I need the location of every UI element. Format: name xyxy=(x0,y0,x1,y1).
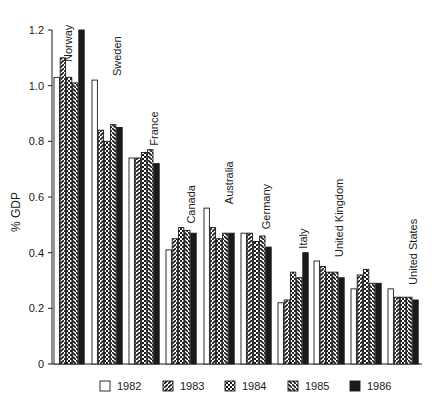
bar xyxy=(185,230,190,364)
bar xyxy=(284,300,289,364)
bar xyxy=(229,233,234,364)
country-label: Sweden xyxy=(111,36,123,76)
bar xyxy=(351,289,356,364)
legend-swatch xyxy=(100,381,110,391)
bar xyxy=(413,300,418,364)
bar-group xyxy=(166,228,196,364)
bar xyxy=(333,272,338,364)
bar-group xyxy=(54,30,84,364)
country-label: Norway xyxy=(62,24,74,62)
y-tick-label: 1.2 xyxy=(29,24,44,36)
bar xyxy=(98,130,103,364)
bar-group xyxy=(278,253,308,364)
bar xyxy=(178,228,183,364)
legend-swatch xyxy=(288,381,298,391)
y-tick-label: 0.2 xyxy=(29,302,44,314)
bar xyxy=(92,80,97,364)
bar xyxy=(223,233,228,364)
bar xyxy=(278,303,283,364)
legend-swatch xyxy=(350,381,360,391)
bar xyxy=(407,297,412,364)
bar xyxy=(216,239,221,364)
bar-group xyxy=(204,208,234,364)
bar xyxy=(154,164,159,364)
y-tick-label: 0.8 xyxy=(29,135,44,147)
bar xyxy=(141,152,146,364)
bar xyxy=(314,261,319,364)
country-label: Germany xyxy=(260,183,272,229)
legend-swatch xyxy=(163,381,173,391)
bar-group xyxy=(351,269,381,364)
bar xyxy=(320,267,325,364)
bar xyxy=(54,77,59,364)
bar-group xyxy=(241,233,271,364)
bar xyxy=(394,297,399,364)
bar-group xyxy=(388,289,418,364)
bar xyxy=(266,247,271,364)
legend: 19821983198419851986 xyxy=(100,380,391,392)
legend-label: 1986 xyxy=(367,380,391,392)
bar xyxy=(297,278,302,364)
bar xyxy=(104,141,109,364)
bar xyxy=(73,83,78,364)
bar xyxy=(166,250,171,364)
bar xyxy=(247,233,252,364)
country-label: Italy xyxy=(297,228,309,249)
legend-item: 1985 xyxy=(288,380,329,392)
bar xyxy=(241,233,246,364)
bar xyxy=(388,289,393,364)
bar xyxy=(303,253,308,364)
legend-item: 1983 xyxy=(163,380,204,392)
bar xyxy=(363,269,368,364)
legend-label: 1984 xyxy=(242,380,266,392)
bar xyxy=(66,77,71,364)
country-label: United States xyxy=(407,218,419,285)
country-label: Canada xyxy=(185,184,197,223)
y-axis-label: % GDP xyxy=(9,192,23,232)
bar xyxy=(60,58,65,364)
bar-group xyxy=(129,150,159,364)
legend-swatch xyxy=(225,381,235,391)
bar-group xyxy=(92,80,122,364)
bar xyxy=(370,283,375,364)
legend-label: 1982 xyxy=(117,380,141,392)
country-label: Australia xyxy=(223,160,235,204)
bar xyxy=(357,275,362,364)
y-tick-label: 0 xyxy=(38,358,44,370)
y-tick-label: 0.6 xyxy=(29,191,44,203)
bar xyxy=(290,272,295,364)
bar xyxy=(111,125,116,364)
legend-label: 1983 xyxy=(180,380,204,392)
bar xyxy=(191,233,196,364)
y-tick-label: 0.4 xyxy=(29,247,44,259)
bar xyxy=(79,30,84,364)
y-tick-label: 1.0 xyxy=(29,80,44,92)
bar xyxy=(253,242,258,364)
bar-chart: 00.20.40.60.81.01.2 NorwaySwedenFranceCa… xyxy=(0,0,435,413)
legend-item: 1982 xyxy=(100,380,141,392)
legend-item: 1986 xyxy=(350,380,391,392)
bar xyxy=(204,208,209,364)
bar xyxy=(135,158,140,364)
bar xyxy=(117,127,122,364)
bar xyxy=(172,239,177,364)
country-label: United Kingdom xyxy=(333,179,345,257)
legend-item: 1984 xyxy=(225,380,266,392)
bar xyxy=(260,236,265,364)
bar xyxy=(400,297,405,364)
bar xyxy=(129,158,134,364)
bar-group xyxy=(314,261,344,364)
country-label: France xyxy=(148,111,160,145)
bar xyxy=(210,228,215,364)
bar xyxy=(376,283,381,364)
bar xyxy=(339,278,344,364)
legend-label: 1985 xyxy=(305,380,329,392)
bar xyxy=(326,272,331,364)
bar xyxy=(148,150,153,364)
bar-groups xyxy=(54,30,418,364)
